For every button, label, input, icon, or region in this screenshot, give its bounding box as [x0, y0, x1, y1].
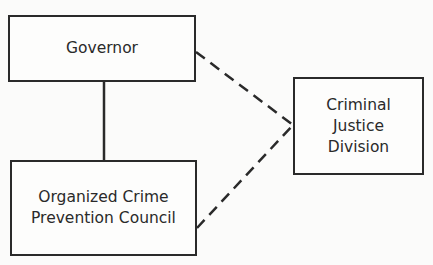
dashed-edge-ocpc-cjd [197, 125, 293, 228]
node-label: Governor [66, 38, 138, 59]
node-label-line: Organized Crime [31, 187, 176, 208]
node-criminal-justice-division: Criminal Justice Division [293, 77, 424, 175]
dashed-edge-governor-cjd [196, 52, 293, 125]
node-label-line: Division [326, 137, 391, 158]
node-label-line: Justice [326, 116, 391, 137]
node-governor: Governor [8, 15, 196, 82]
node-label-line: Criminal [326, 95, 391, 116]
node-label-line: Prevention Council [31, 208, 176, 229]
node-organized-crime-prevention-council: Organized Crime Prevention Council [10, 160, 197, 256]
